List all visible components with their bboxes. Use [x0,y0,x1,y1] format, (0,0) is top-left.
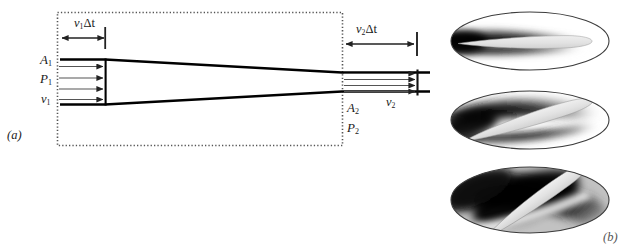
outlet-velocity-arrows [344,74,415,92]
outlet-displacement-label: v2Δt [356,23,377,36]
outlet-area-label: A2 [347,101,359,114]
panel-a-tag: (a) [7,129,22,142]
outlet-pressure-label: P2 [347,121,359,134]
airfoil-series-svg [440,0,620,244]
inlet-area-label: A1 [40,53,52,66]
inlet-displacement-label: v1Δt [74,17,95,30]
inlet-velocity-arrows [59,67,103,100]
airfoil-image-2 [440,88,620,154]
panel-b-airfoil-series: (b) [440,0,620,244]
figure-root: v1Δt v2Δt A1 P1 v1 A2 P2 v2 (a) [0,0,620,244]
tube-lower-wall [60,92,430,105]
inlet-velocity-label: v1 [41,93,50,106]
inlet-pressure-label: P1 [40,72,52,85]
airfoil-image-3 [440,158,620,243]
airfoil-image-1 [440,8,620,76]
panel-a-flow-tube: v1Δt v2Δt A1 P1 v1 A2 P2 v2 (a) [0,0,440,170]
outlet-velocity-label: v2 [386,96,395,109]
tube-upper-wall [60,60,430,73]
control-volume-boundary [58,13,343,146]
panel-b-tag: (b) [603,231,618,244]
